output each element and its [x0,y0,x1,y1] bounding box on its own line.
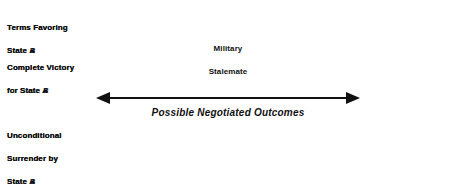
surrender-state-letter: A [29,177,35,186]
victory-state-letter: B [43,86,49,95]
arrow-head-right-icon [346,92,360,104]
stalemate-line-2: Stalemate [209,67,248,76]
surrender-line-1: Unconditional [7,131,62,140]
victory-line-2: for State [7,86,43,95]
arrow-head-left-icon [96,92,110,104]
arrow-caption-possible-negotiated-outcomes: Possible Negotiated Outcomes [98,107,358,118]
terms-line-1: Terms Favoring [7,23,68,32]
stalemate-line-1: Military [214,44,243,53]
war-outcomes-spectrum-diagram: Complete Victory fcr State A Uncondition… [0,0,456,193]
label-military-stalemate: Military Stalemate [186,31,270,77]
victory-line-1: Complete Victory [7,63,74,72]
label-unconditional-surrender-state-a: Unconditional Surrender by State A [0,118,85,187]
surrender-line-3: State [7,177,29,186]
surrender-line-2: Surrender by [7,154,58,163]
label-complete-victory-state-b: Complete Victory for State B [0,50,85,96]
panel-military-stalemate: Military Stalemate [186,11,270,180]
